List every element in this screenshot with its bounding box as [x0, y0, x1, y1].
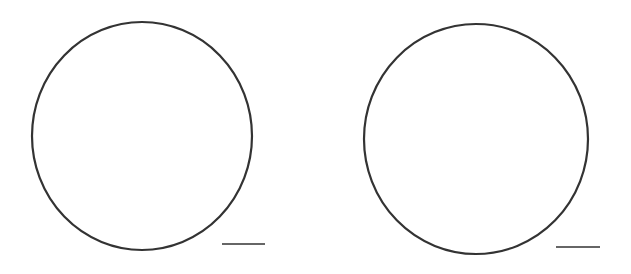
shape-group-2	[364, 24, 600, 254]
circle-2	[364, 24, 588, 254]
circle-1	[32, 22, 252, 250]
shape-group-1	[32, 22, 265, 250]
figure-canvas	[0, 0, 631, 274]
